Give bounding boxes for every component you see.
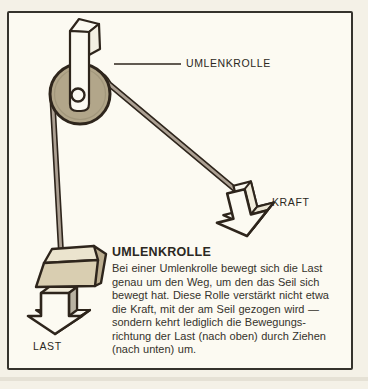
pulley-label: UMLENKROLLE bbox=[186, 57, 271, 69]
load-arrow-icon bbox=[28, 287, 90, 334]
page: UMLENKROLLE KRAFT LAST UMLENKROLLE Bei e… bbox=[0, 0, 368, 389]
weight-front-face bbox=[36, 260, 98, 287]
force-arrow-icon bbox=[209, 177, 280, 242]
caption: UMLENKROLLE Bei einer Umlenkrolle bewegt… bbox=[112, 245, 354, 357]
load-weight bbox=[36, 246, 106, 287]
caption-title: UMLENKROLLE bbox=[112, 245, 354, 259]
axle bbox=[72, 89, 85, 102]
load-label: LAST bbox=[33, 340, 62, 352]
page-edge-shadow bbox=[0, 377, 368, 381]
caption-body: Bei einer Umlenkrolle bewegt sich die La… bbox=[112, 262, 354, 357]
force-label: KRAFT bbox=[272, 196, 309, 208]
